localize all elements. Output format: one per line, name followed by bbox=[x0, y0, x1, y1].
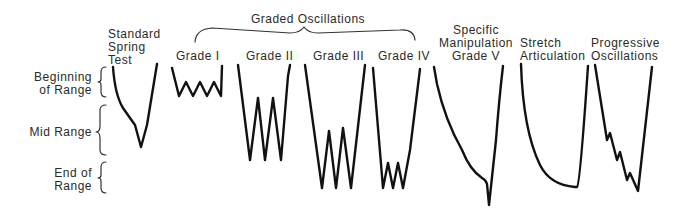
brace-beginning bbox=[98, 67, 106, 97]
curve-grade-4 bbox=[373, 68, 420, 188]
curve-standard-spring-test bbox=[113, 64, 157, 147]
curve-stretch-articulation bbox=[521, 64, 588, 187]
brace-graded-oscillations bbox=[195, 27, 415, 42]
curve-grade-3 bbox=[305, 65, 365, 188]
brace-mid bbox=[96, 105, 106, 155]
curve-grade-1 bbox=[172, 66, 222, 96]
oscillation-diagram bbox=[0, 0, 687, 219]
brace-end bbox=[98, 162, 106, 193]
curve-grade-5 bbox=[434, 66, 503, 205]
curve-grade-2 bbox=[238, 65, 290, 160]
curve-progressive-oscillations bbox=[595, 65, 652, 191]
